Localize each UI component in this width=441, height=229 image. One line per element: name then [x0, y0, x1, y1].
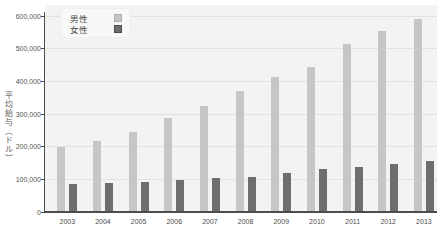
- bar-female: [69, 184, 77, 212]
- x-tick-label: 2004: [85, 217, 121, 226]
- y-tick-label: 0: [0, 208, 41, 217]
- bar-male: [378, 31, 386, 212]
- legend-swatch-female: [114, 25, 122, 33]
- bar-female: [283, 173, 291, 212]
- bar-female: [105, 183, 113, 212]
- bar-chart: 平均給与（ドル） 0100,000200,000300,000400,00050…: [0, 0, 441, 229]
- x-tick-label: 2009: [263, 217, 299, 226]
- x-tick-label: 2006: [156, 217, 192, 226]
- legend-label: 女性: [70, 23, 104, 35]
- legend-item-male: 男性: [70, 12, 122, 23]
- y-tick-label: 500,000: [0, 44, 41, 53]
- y-tick-label: 600,000: [0, 12, 41, 21]
- bar-female: [355, 167, 363, 212]
- bar-male: [57, 147, 65, 212]
- bar-male: [236, 91, 244, 212]
- legend-item-female: 女性: [70, 23, 122, 34]
- bar-female: [141, 182, 149, 212]
- bar-male: [343, 44, 351, 212]
- x-tick-label: 2012: [370, 217, 406, 226]
- x-tick-label: 2008: [228, 217, 264, 226]
- x-axis-line: [44, 211, 437, 213]
- x-tick-label: 2010: [299, 217, 335, 226]
- y-axis-line: [44, 12, 46, 213]
- bar-female: [426, 161, 434, 212]
- x-tick-label: 2003: [49, 217, 85, 226]
- x-tick-label: 2007: [192, 217, 228, 226]
- legend: 男性女性: [60, 8, 131, 38]
- bar-male: [200, 106, 208, 212]
- y-axis-title: 平均給与（ドル）: [2, 72, 13, 182]
- bar-male: [129, 132, 137, 212]
- bar-male: [271, 77, 279, 212]
- x-tick-label: 2013: [406, 217, 441, 226]
- bar-male: [307, 67, 315, 212]
- bar-female: [390, 164, 398, 212]
- legend-swatch-male: [114, 14, 122, 22]
- bar-female: [212, 178, 220, 212]
- bar-female: [248, 177, 256, 212]
- bar-male: [93, 141, 101, 212]
- bar-male: [164, 118, 172, 212]
- bar-female: [319, 169, 327, 212]
- x-tick-label: 2011: [335, 217, 371, 226]
- bar-male: [414, 19, 422, 212]
- bar-female: [176, 180, 184, 212]
- x-tick-label: 2005: [121, 217, 157, 226]
